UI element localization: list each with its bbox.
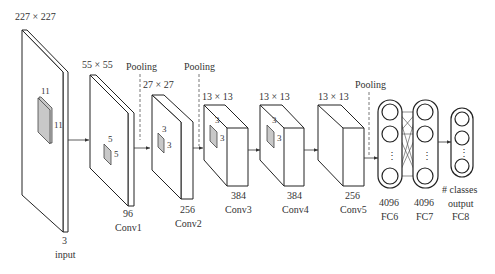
fc7-neuron <box>417 126 433 142</box>
conv1-channels-label: 96 <box>123 208 133 219</box>
conv2-channels-label: 256 <box>180 204 195 215</box>
fc8-name-label: FC8 <box>452 211 469 222</box>
conv2-name-label: Conv2 <box>175 218 202 229</box>
conv5-box-outline <box>318 105 364 186</box>
conv3-box-outline <box>204 105 248 186</box>
conv1-kernel-w-label: 5 <box>114 149 119 159</box>
conv1-name-label: Conv1 <box>115 222 142 233</box>
conv3-name-label: Conv3 <box>225 204 252 215</box>
conv2-size-label: 27 × 27 <box>143 79 174 90</box>
fc7-ellipsis: ⋮ <box>422 150 432 161</box>
conv2-kernel-h-label: 3 <box>162 124 167 134</box>
fc6-layer: ⋮ 4096 FC6 <box>378 100 402 222</box>
fc6-neuron <box>382 168 398 184</box>
fc6-ellipsis: ⋮ <box>387 150 397 161</box>
pooling-2-label: Pooling <box>184 61 215 72</box>
fc6-neuron <box>382 104 398 120</box>
fc8-output-label: output <box>448 198 474 209</box>
conv3-kernel-w-label: 3 <box>220 133 225 143</box>
fc8-neuron <box>455 131 469 145</box>
fc7-units-label: 4096 <box>414 197 434 208</box>
conv1-kernel-h-label: 5 <box>108 134 113 144</box>
input-size-label: 227 × 227 <box>15 11 56 22</box>
pooling-3-label: Pooling <box>355 79 386 90</box>
input-kernel-h-label: 11 <box>41 86 50 96</box>
fc8-ellipsis: ⋮ <box>459 147 469 158</box>
fc6-name-label: FC6 <box>381 211 398 222</box>
input-name-label: input <box>55 249 76 260</box>
input-layer: 227 × 227 11 11 3 input <box>15 11 76 260</box>
conv4-kernel-h-label: 3 <box>272 115 277 125</box>
fc7-name-label: FC7 <box>416 211 433 222</box>
fc8-units-label: # classes <box>442 184 477 195</box>
fc8-neuron <box>455 112 469 126</box>
conv5-channels-label: 256 <box>345 190 360 201</box>
conv4-name-label: Conv4 <box>282 204 309 215</box>
conv5-size-label: 13 × 13 <box>318 91 349 102</box>
fc7-neuron <box>417 104 433 120</box>
conv4-kernel-w-label: 3 <box>277 133 282 143</box>
alexnet-diagram: 227 × 227 11 11 3 input 55 × 55 5 5 96 C… <box>0 0 495 274</box>
conv3-layer: 13 × 13 3 3 384 Conv3 <box>202 91 252 215</box>
input-channels-label: 3 <box>62 235 67 246</box>
conv5-name-label: Conv5 <box>340 204 367 215</box>
pooling-1-label: Pooling <box>126 61 157 72</box>
conv3-size-label: 13 × 13 <box>202 91 233 102</box>
conv4-channels-label: 384 <box>287 190 302 201</box>
conv2-kernel-w-label: 3 <box>167 140 172 150</box>
fc7-neuron <box>417 168 433 184</box>
conv1-layer: 55 × 55 5 5 96 Conv1 <box>82 59 142 233</box>
fc6-units-label: 4096 <box>379 197 399 208</box>
conv2-layer: 27 × 27 3 3 256 Conv2 <box>143 79 202 229</box>
conv4-layer: 13 × 13 3 3 384 Conv4 <box>259 91 309 215</box>
input-kernel-w-label: 11 <box>54 120 63 130</box>
fc8-layer: ⋮ # classes output FC8 <box>442 108 477 222</box>
conv1-size-label: 55 × 55 <box>82 59 113 70</box>
fc8-neuron <box>455 159 469 173</box>
conv3-kernel-h-label: 3 <box>215 115 220 125</box>
conv4-box-outline <box>260 105 304 186</box>
fc6-neuron <box>382 126 398 142</box>
fc7-layer: ⋮ 4096 FC7 <box>413 100 438 222</box>
conv4-size-label: 13 × 13 <box>259 91 290 102</box>
conv5-layer: 13 × 13 256 Conv5 <box>318 91 367 215</box>
conv3-channels-label: 384 <box>231 190 246 201</box>
